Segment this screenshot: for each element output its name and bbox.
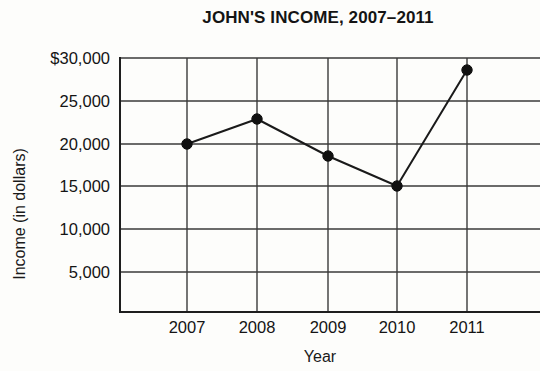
plot-area xyxy=(0,0,540,371)
income-series-line xyxy=(187,70,467,186)
data-point-2011 xyxy=(462,65,472,75)
data-point-2010 xyxy=(392,181,402,191)
vertical-gridlines xyxy=(187,58,467,312)
data-point-2007 xyxy=(182,139,192,149)
horizontal-gridlines xyxy=(120,58,540,272)
data-point-2009 xyxy=(323,151,333,161)
income-line-chart: JOHN'S INCOME, 2007–2011 Income (in doll… xyxy=(0,0,540,371)
data-point-2008 xyxy=(252,114,262,124)
